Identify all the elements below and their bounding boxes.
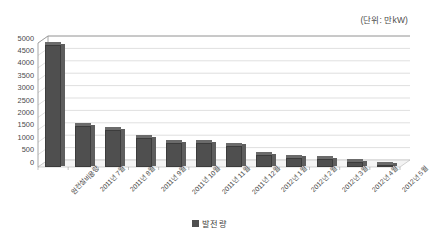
bar-front-face	[75, 126, 91, 167]
bar-top-face	[196, 140, 212, 143]
bar	[45, 45, 61, 167]
y-axis-tick-label: 3000	[18, 84, 34, 91]
x-axis-tick-label: 2011년 7월	[99, 165, 127, 193]
x-axis-tick-label: 원전설비용량	[70, 165, 101, 196]
y-axis-tick-label: 1500	[18, 121, 34, 128]
bar-side-face	[61, 44, 65, 166]
bar-side-face	[182, 142, 186, 166]
chart-legend: 발전량	[0, 217, 419, 229]
x-axis-tick-label: 2011년 12월	[251, 165, 282, 196]
x-axis-tick-label: 2012년 4월	[370, 165, 399, 194]
bar	[105, 130, 121, 167]
x-axis-tick-label: 2012년 1월	[280, 165, 309, 194]
bar-side-face	[91, 125, 95, 166]
x-axis-tick-label: 2012년 5월	[401, 165, 429, 194]
legend-swatch-icon	[192, 220, 199, 227]
y-axis-tick-label: 1000	[18, 134, 34, 141]
x-axis-tick-label: 2011년 10월	[190, 165, 221, 196]
bar-top-face	[105, 127, 121, 130]
y-axis-tick-label: 2000	[18, 109, 34, 116]
y-axis-tick-label: 4000	[18, 59, 34, 66]
x-axis-tick-label: 2012년 2월	[310, 165, 339, 194]
y-axis-tick-label: 2500	[18, 97, 34, 104]
bar-top-face	[256, 152, 272, 155]
bar-top-face	[75, 123, 91, 126]
bar-side-face	[121, 129, 125, 166]
x-axis-tick-label: 2011년 8월	[129, 165, 157, 193]
bar-side-face	[212, 142, 216, 166]
y-axis-tick-label: 4500	[18, 47, 34, 54]
legend-label: 발전량	[202, 217, 227, 229]
bar-series	[38, 36, 410, 167]
bar-top-face	[45, 42, 61, 45]
y-axis: 5000450040003500300025002000150010005000	[0, 31, 36, 155]
bar-top-face	[286, 155, 302, 158]
bar	[75, 126, 91, 167]
bar-top-face	[226, 143, 242, 146]
x-axis-tick-label: 2012년 3월	[340, 165, 369, 194]
unit-annotation: (단위: 만kW)	[360, 13, 408, 25]
bar-front-face	[45, 45, 61, 167]
y-axis-tick-label: 0	[30, 159, 34, 166]
bar-top-face	[347, 159, 363, 162]
x-axis-tick-label: 2011년 11월	[220, 165, 251, 196]
bar-side-face	[152, 137, 156, 166]
y-axis-tick-label: 5000	[18, 35, 34, 42]
bar-top-face	[136, 135, 152, 138]
bar-front-face	[105, 130, 121, 167]
bar-top-face	[317, 156, 333, 159]
x-axis: 원전설비용량2011년 7월2011년 8월2011년 9월2011년 10월2…	[38, 163, 410, 209]
bar-top-face	[166, 140, 182, 143]
x-axis-tick-label: 2011년 9월	[159, 165, 187, 193]
y-axis-tick-label: 500	[22, 146, 34, 153]
y-axis-tick-label: 3500	[18, 72, 34, 79]
